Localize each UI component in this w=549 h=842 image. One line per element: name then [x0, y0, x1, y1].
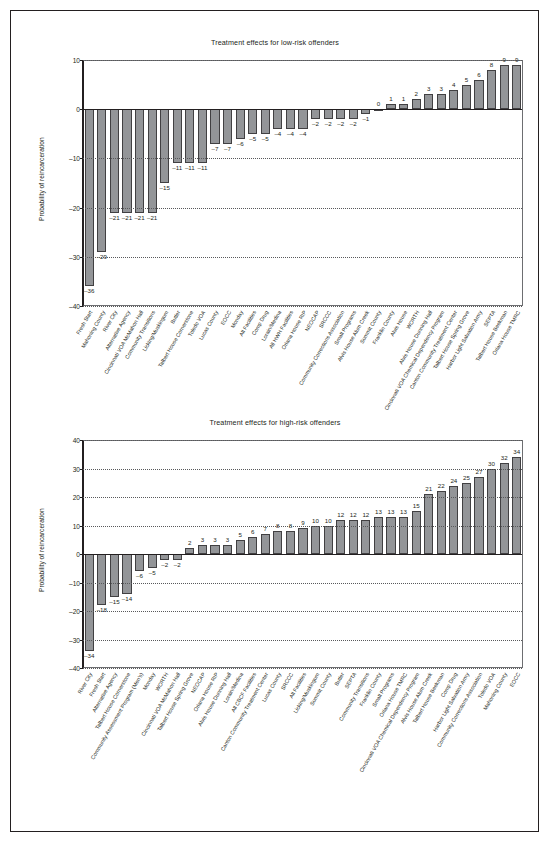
bar-value-label: –11 — [197, 164, 207, 171]
bar — [311, 109, 320, 119]
bar-value-label: –2 — [174, 561, 181, 568]
y-tick-mark — [80, 668, 83, 669]
chart-title-low-risk: Treatment effects for low-risk offenders — [24, 38, 526, 47]
bar — [173, 109, 182, 163]
bar-value-label: –2 — [337, 120, 344, 127]
bar — [349, 109, 358, 119]
bar-value-label: 10 — [312, 517, 319, 524]
bar-value-label: 15 — [413, 502, 420, 509]
gridline — [83, 60, 522, 61]
gridline — [83, 306, 522, 307]
bar-value-label: 3 — [427, 85, 430, 92]
plot-area-high-risk: –34–18–15–14–6–5–2–223335678891010121212… — [82, 440, 522, 668]
y-tick-label: –40 — [69, 303, 80, 310]
bar — [487, 469, 496, 555]
bar-value-label: –21 — [109, 214, 119, 221]
bar-value-label: –11 — [172, 164, 182, 171]
bar — [437, 491, 446, 554]
bar-value-label: 1 — [389, 95, 392, 102]
y-tick-label: –20 — [69, 204, 80, 211]
bar — [324, 109, 333, 119]
bar-value-label: 10 — [325, 517, 332, 524]
y-tick-mark — [80, 526, 83, 527]
bar — [424, 494, 433, 554]
bar — [298, 528, 307, 554]
bar-value-label: –34 — [84, 652, 94, 659]
bar — [85, 554, 94, 651]
bar — [324, 526, 333, 555]
bar — [474, 80, 483, 110]
y-tick-mark — [80, 583, 83, 584]
bar — [110, 554, 119, 597]
y-tick-label: –20 — [69, 608, 80, 615]
bar-value-label: 12 — [337, 511, 344, 518]
bar-value-label: –21 — [147, 214, 157, 221]
bar-value-label: –4 — [287, 130, 294, 137]
bar — [273, 531, 282, 554]
bar — [386, 517, 395, 554]
bar-value-label: 3 — [226, 536, 229, 543]
bar — [462, 483, 471, 554]
gridline — [83, 583, 522, 584]
bar-value-label: 24 — [450, 477, 457, 484]
bar — [449, 90, 458, 110]
y-axis-label-low-risk: Probability of reincarceration — [38, 137, 45, 221]
y-tick-label: –10 — [69, 579, 80, 586]
bar — [474, 477, 483, 554]
bar — [210, 109, 219, 143]
bar-value-label: –18 — [97, 606, 107, 613]
bar-value-label: –21 — [134, 214, 144, 221]
bar-value-label: –6 — [136, 572, 143, 579]
bar — [437, 94, 446, 109]
bar — [198, 109, 207, 163]
y-tick-mark — [80, 257, 83, 258]
bar — [261, 534, 270, 554]
y-tick-mark — [80, 208, 83, 209]
bar — [500, 463, 509, 554]
gridline — [83, 469, 522, 470]
bar-value-label: –2 — [161, 561, 168, 568]
bar — [424, 94, 433, 109]
bar-value-label: 0 — [377, 100, 380, 107]
y-tick-label: 30 — [73, 465, 80, 472]
plot-area-low-risk: –36–29–21–21–21–21–15–11–11–11–7–7–6–5–5… — [82, 60, 522, 306]
chart-high-risk: Treatment effects for high-risk offender… — [24, 418, 526, 798]
bar — [97, 109, 106, 252]
bar — [236, 109, 245, 139]
bar — [487, 70, 496, 109]
bar-value-label: 30 — [488, 460, 495, 467]
bar — [160, 109, 169, 183]
y-tick-mark — [80, 611, 83, 612]
y-tick-label: 10 — [73, 522, 80, 529]
bar-value-label: –2 — [350, 120, 357, 127]
bar-value-label: 4 — [452, 81, 455, 88]
bar-value-label: 1 — [402, 95, 405, 102]
y-tick-mark — [80, 306, 83, 307]
bar-value-label: 3 — [213, 536, 216, 543]
bar — [122, 109, 131, 212]
bar-value-label: –1 — [362, 115, 369, 122]
bar — [500, 65, 509, 109]
bar — [135, 109, 144, 212]
bar-value-label: 5 — [238, 531, 241, 538]
bar — [336, 109, 345, 119]
bar — [311, 526, 320, 555]
bar-value-label: 3 — [440, 85, 443, 92]
bar-value-label: 34 — [513, 448, 520, 455]
bar — [286, 531, 295, 554]
chart-low-risk: Treatment effects for low-risk offenders… — [24, 38, 526, 398]
bar-value-label: 12 — [362, 511, 369, 518]
y-tick-label: –30 — [69, 636, 80, 643]
bar — [248, 537, 257, 554]
bar-value-label: –4 — [274, 130, 281, 137]
bar-value-label: 25 — [463, 474, 470, 481]
gridline — [83, 526, 522, 527]
bar-value-label: –5 — [262, 135, 269, 142]
bar-value-label: 2 — [414, 90, 417, 97]
bar-value-label: –2 — [325, 120, 332, 127]
y-tick-label: –10 — [69, 155, 80, 162]
bar — [236, 540, 245, 554]
bar-value-label: 13 — [375, 508, 382, 515]
bar-value-label: 22 — [438, 482, 445, 489]
gridline — [83, 640, 522, 641]
